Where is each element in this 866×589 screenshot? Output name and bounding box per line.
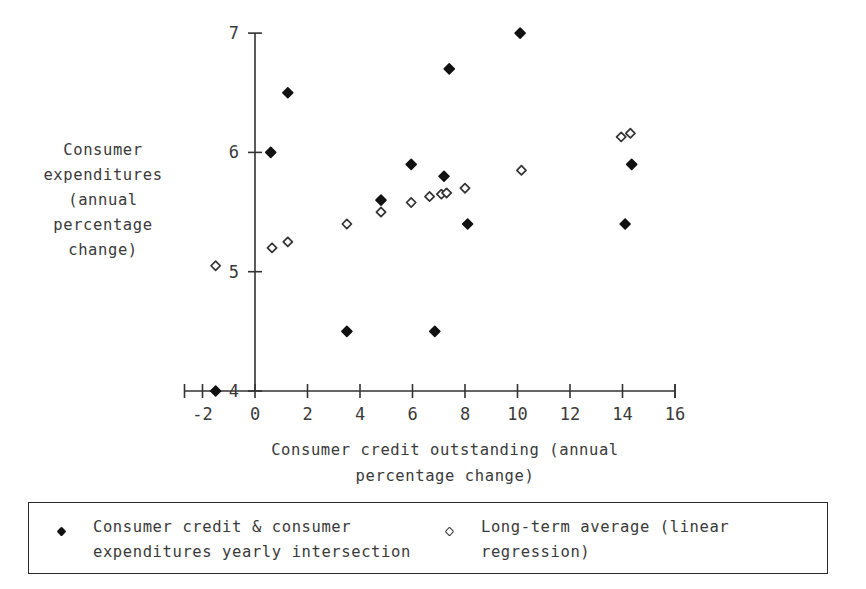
data-point-filled [430, 326, 440, 336]
y-axis-label: Consumerexpenditures(annualpercentagecha… [8, 138, 198, 263]
x-axis-label-line: Consumer credit outstanding (annual [205, 437, 685, 463]
data-point-open [425, 192, 434, 201]
data-point-open [376, 207, 385, 216]
x-axis-tick-label: 4 [355, 404, 365, 424]
data-point-open [211, 261, 220, 270]
y-axis-tick-label: 4 [229, 381, 239, 401]
chart-legend: Consumer credit & consumer expenditures … [28, 502, 828, 574]
legend-entry-filled: Consumer credit & consumer expenditures … [51, 515, 411, 565]
data-point-filled [444, 64, 454, 74]
y-axis-tick-label: 7 [229, 23, 239, 43]
data-point-open [460, 184, 469, 193]
data-point-filled [342, 326, 352, 336]
x-axis-label-line: percentage change) [205, 463, 685, 489]
data-point-filled [463, 219, 473, 229]
data-point-filled [376, 195, 386, 205]
data-point-filled [211, 386, 221, 396]
y-axis-label-line: expenditures [8, 163, 198, 188]
y-axis-label-line: change) [8, 238, 198, 263]
x-axis-tick-label: -2 [192, 404, 212, 424]
x-axis-tick-label: 14 [612, 404, 632, 424]
x-axis-tick-label: 6 [407, 404, 417, 424]
data-point-open [267, 243, 276, 252]
x-axis-label: Consumer credit outstanding (annualperce… [205, 437, 685, 489]
data-point-filled [627, 159, 637, 169]
data-point-open [617, 132, 626, 141]
x-axis-tick-label: 10 [507, 404, 527, 424]
data-point-open [283, 237, 292, 246]
scatter-chart-figure: -202468101214164567 Consumerexpenditures… [0, 0, 866, 589]
x-axis-tick-label: 2 [302, 404, 312, 424]
y-axis-tick-label: 6 [229, 142, 239, 162]
data-point-open [626, 129, 635, 138]
x-axis-tick-label: 12 [560, 404, 580, 424]
filled-diamond-icon [51, 515, 71, 539]
data-point-open [407, 198, 416, 207]
y-axis-label-line: Consumer [8, 138, 198, 163]
data-point-filled [515, 28, 525, 38]
open-diamond-icon [439, 515, 459, 539]
x-axis-tick-label: 8 [460, 404, 470, 424]
data-point-open [342, 219, 351, 228]
data-point-filled [283, 88, 293, 98]
data-point-open [517, 166, 526, 175]
legend-label-open: Long-term average (linear regression) [481, 515, 729, 565]
y-axis-label-line: (annual [8, 188, 198, 213]
data-point-filled [406, 159, 416, 169]
x-axis-tick-label: 16 [665, 404, 685, 424]
data-point-filled [439, 171, 449, 181]
data-point-filled [620, 219, 630, 229]
legend-entry-open: Long-term average (linear regression) [439, 515, 729, 565]
y-axis-label-line: percentage [8, 213, 198, 238]
y-axis-tick-label: 5 [229, 262, 239, 282]
x-axis-tick-label: 0 [250, 404, 260, 424]
legend-label-filled: Consumer credit & consumer expenditures … [93, 515, 411, 565]
plot-area: -202468101214164567 [0, 0, 866, 589]
data-point-filled [266, 147, 276, 157]
